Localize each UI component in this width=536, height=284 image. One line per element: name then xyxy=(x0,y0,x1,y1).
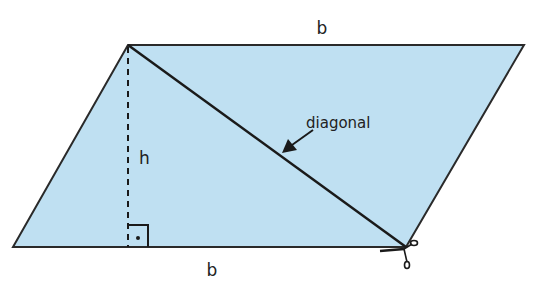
right-angle-dot xyxy=(136,236,140,240)
parallelogram-diagram: b b h diagonal xyxy=(0,0,536,284)
bottom-base-label: b xyxy=(207,260,218,280)
height-label: h xyxy=(139,148,150,168)
diagonal-label: diagonal xyxy=(306,114,370,132)
top-base-label: b xyxy=(317,18,328,38)
